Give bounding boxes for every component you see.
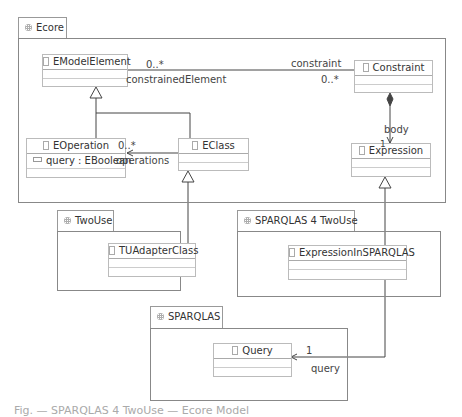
class-icon bbox=[43, 141, 49, 150]
package-icon bbox=[25, 24, 32, 31]
class-icon bbox=[43, 57, 49, 66]
attribute-query[interactable]: query : EBoolean bbox=[27, 154, 125, 169]
multiplicity-label: 1 bbox=[380, 139, 386, 149]
package-name: SPARQLAS 4 TwoUse bbox=[255, 215, 358, 226]
class-eclass[interactable]: EClass bbox=[178, 138, 249, 171]
class-tuadapterclass[interactable]: TUAdapterClass bbox=[108, 243, 196, 277]
class-name: EModelElement bbox=[53, 56, 131, 67]
class-name: Constraint bbox=[373, 62, 425, 73]
class-emodelelement[interactable]: EModelElement bbox=[42, 54, 128, 87]
class-query[interactable]: Query bbox=[213, 343, 292, 377]
package-tab-sparqlas[interactable]: SPARQLAS bbox=[150, 306, 223, 329]
package-icon bbox=[64, 217, 71, 224]
class-name: EOperation bbox=[53, 140, 109, 151]
class-icon bbox=[109, 246, 115, 255]
multiplicity-label: 0..* bbox=[146, 59, 164, 70]
package-icon bbox=[244, 217, 251, 224]
class-constraint[interactable]: Constraint bbox=[354, 60, 433, 93]
package-tab-ecore[interactable]: Ecore bbox=[18, 17, 67, 39]
class-name: EClass bbox=[202, 140, 235, 151]
package-name: SPARQLAS bbox=[168, 311, 220, 322]
package-name: Ecore bbox=[36, 22, 64, 33]
class-icon bbox=[289, 248, 295, 257]
package-tab-twouse[interactable]: TwoUse bbox=[57, 210, 114, 232]
class-icon bbox=[363, 63, 369, 72]
class-name: Expression bbox=[369, 145, 423, 156]
package-name: TwoUse bbox=[75, 215, 112, 226]
multiplicity-label: 1 bbox=[306, 345, 312, 356]
class-eoperation[interactable]: EOperation query : EBoolean bbox=[26, 138, 126, 178]
role-label: operations bbox=[116, 155, 169, 166]
class-icon bbox=[192, 141, 198, 150]
class-name: Query bbox=[242, 345, 272, 356]
multiplicity-label: 0..* bbox=[321, 74, 339, 85]
role-label: constrainedElement bbox=[126, 74, 226, 85]
role-label: constraint bbox=[291, 58, 341, 69]
role-label: body bbox=[384, 124, 409, 135]
figure-caption: Fig. — SPARQLAS 4 TwoUse — Ecore Model bbox=[14, 404, 249, 417]
multiplicity-label: 0..* bbox=[118, 140, 136, 151]
class-icon bbox=[359, 146, 365, 155]
class-icon bbox=[232, 346, 238, 355]
class-expressioninsparqlas[interactable]: ExpressionInSPARQLAS bbox=[288, 245, 407, 280]
attribute-icon bbox=[33, 157, 42, 162]
package-icon bbox=[157, 313, 164, 320]
role-label: query bbox=[311, 363, 340, 374]
class-name: ExpressionInSPARQLAS bbox=[299, 247, 415, 258]
class-expression[interactable]: Expression bbox=[351, 143, 431, 177]
class-name: TUAdapterClass bbox=[119, 245, 198, 256]
package-tab-sparqlas4twouse[interactable]: SPARQLAS 4 TwoUse bbox=[237, 210, 355, 232]
